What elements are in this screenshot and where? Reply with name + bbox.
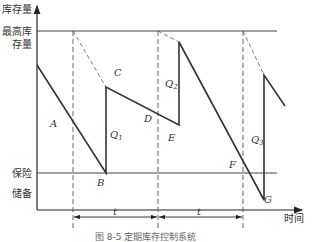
- interval-t2-label: t: [197, 206, 202, 217]
- max-inventory-label-1: 最高库: [2, 25, 32, 37]
- point-f-label: F: [228, 159, 237, 170]
- inventory-level-line: [37, 42, 285, 200]
- max-inventory-label-2: 存量: [12, 38, 32, 50]
- interval-t1-label: t: [113, 206, 118, 217]
- point-g-label: G: [264, 194, 272, 205]
- point-b-label: B: [96, 177, 104, 188]
- point-d-label: D: [143, 113, 152, 124]
- safety-stock-label-2: 储备: [12, 187, 32, 199]
- point-e-label: E: [167, 132, 176, 143]
- q2-label: Q2: [165, 78, 178, 91]
- point-a-label: A: [49, 118, 57, 129]
- inventory-diagram: 库存量 时间 最高库 存量 保险 储备 A B C D E F G Q1 Q2 …: [0, 0, 312, 242]
- projection-1: [73, 31, 106, 87]
- q3-label: Q3: [251, 134, 264, 147]
- projection-3: [243, 31, 264, 75]
- x-axis-label: 时间: [284, 212, 304, 224]
- q1-label: Q1: [110, 129, 123, 142]
- projection-2: [158, 31, 179, 42]
- figure-caption: 图 8-5 定期库存控制系统: [95, 231, 196, 242]
- point-c-label: C: [114, 67, 122, 78]
- y-axis-label: 库存量: [2, 3, 32, 15]
- safety-stock-label-1: 保险: [12, 167, 32, 179]
